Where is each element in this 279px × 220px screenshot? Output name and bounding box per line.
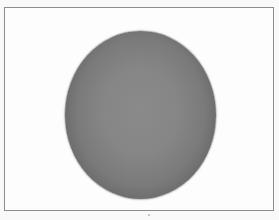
speck-mark — [148, 214, 150, 216]
image-canvas — [0, 0, 279, 220]
grey-sphere — [65, 31, 216, 199]
